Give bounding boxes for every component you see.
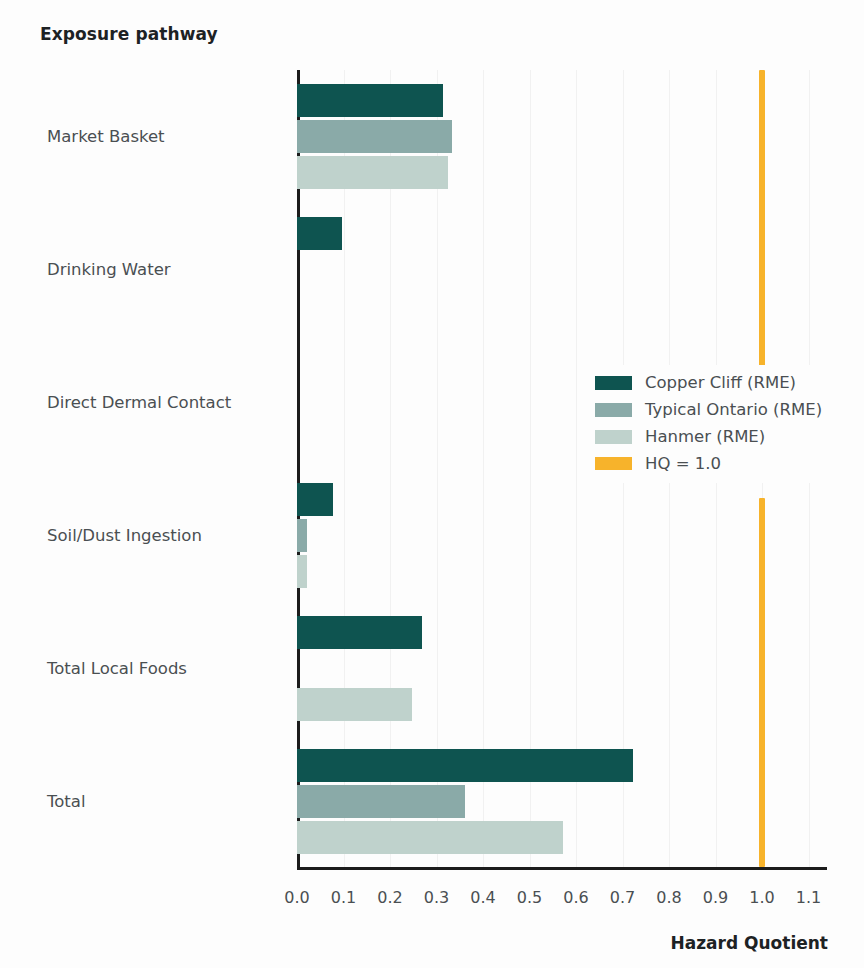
bar — [297, 616, 422, 649]
x-tick-label: 0.4 — [470, 888, 495, 907]
x-tick-label: 0.1 — [331, 888, 356, 907]
bar-group — [297, 749, 827, 857]
bar — [297, 785, 465, 818]
x-tick-label: 0.3 — [424, 888, 449, 907]
legend-swatch-typical-ontario — [595, 403, 632, 417]
bar-group — [297, 616, 827, 724]
x-tick-label: 0.6 — [563, 888, 588, 907]
x-tick-label: 0.5 — [517, 888, 542, 907]
legend-label-typical-ontario: Typical Ontario (RME) — [645, 400, 822, 419]
x-axis-title: Hazard Quotient — [671, 933, 828, 953]
legend-swatch-hanmer — [595, 430, 632, 444]
x-tick-label: 0.7 — [610, 888, 635, 907]
bar — [297, 120, 452, 153]
x-tick-label: 1.1 — [796, 888, 821, 907]
bar — [297, 555, 307, 588]
category-label: Total Local Foods — [47, 659, 287, 678]
legend-label-hq-threshold: HQ = 1.0 — [645, 454, 721, 473]
hq-threshold-segment — [759, 70, 765, 372]
bar — [297, 749, 633, 782]
legend-swatch-copper-cliff — [595, 376, 632, 390]
chart-legend: Copper Cliff (RME) Typical Ontario (RME)… — [595, 365, 828, 483]
x-tick-label: 1.0 — [749, 888, 774, 907]
category-label: Soil/Dust Ingestion — [47, 526, 287, 545]
legend-item[interactable]: Typical Ontario (RME) — [595, 396, 822, 423]
bar — [297, 688, 412, 721]
bar-group — [297, 217, 827, 325]
bar — [297, 84, 443, 117]
category-label: Market Basket — [47, 127, 287, 146]
x-tick-label: 0.8 — [656, 888, 681, 907]
hq-threshold-segment — [759, 498, 765, 867]
legend-swatch-hq-threshold — [595, 457, 632, 470]
legend-label-hanmer: Hanmer (RME) — [645, 427, 765, 446]
legend-item[interactable]: HQ = 1.0 — [595, 450, 822, 477]
bar — [297, 821, 563, 854]
y-axis-title: Exposure pathway — [40, 24, 218, 44]
x-tick-label: 0.2 — [377, 888, 402, 907]
bar — [297, 156, 448, 189]
bar — [297, 519, 307, 552]
bar — [297, 217, 342, 250]
top-edge-artifact — [0, 0, 864, 14]
x-axis-tick-labels: 0.00.10.20.30.40.50.60.70.80.91.01.1 — [0, 888, 864, 918]
category-label: Direct Dermal Contact — [47, 393, 287, 412]
bar-group — [297, 483, 827, 591]
x-tick-label: 0.0 — [284, 888, 309, 907]
bar — [297, 483, 333, 516]
legend-label-copper-cliff: Copper Cliff (RME) — [645, 373, 796, 392]
legend-item[interactable]: Copper Cliff (RME) — [595, 369, 822, 396]
legend-item[interactable]: Hanmer (RME) — [595, 423, 822, 450]
category-label: Drinking Water — [47, 260, 287, 279]
category-label: Total — [47, 792, 287, 811]
bar-group — [297, 84, 827, 192]
hazard-quotient-bar-chart: Exposure pathway Market BasketDrinking W… — [0, 0, 864, 968]
x-axis-line — [297, 867, 827, 870]
x-tick-label: 0.9 — [703, 888, 728, 907]
